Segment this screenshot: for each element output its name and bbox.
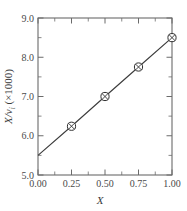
data-point-marker — [67, 122, 75, 130]
y-tick-label: 8.0 — [22, 52, 35, 63]
x-tick-label: 0.75 — [130, 178, 148, 189]
x-tick-label: 1.00 — [163, 178, 181, 189]
chart-svg: 5.0 6.0 7.0 8.0 9.0 0.00 0.25 0.50 0.75 … — [0, 0, 187, 211]
y-tick-label: 6.0 — [22, 130, 35, 141]
x-tick-label: 0.25 — [63, 178, 81, 189]
y-axis-title: X/νi (×1000) — [2, 69, 17, 125]
y-axis-title-suffix: (×1000) — [2, 69, 15, 105]
x-axis-title: X — [96, 194, 105, 206]
x-tick-label: 0.00 — [29, 178, 47, 189]
svg-text:X/νi (×1000): X/νi (×1000) — [2, 69, 17, 125]
y-tick-label: 7.0 — [22, 91, 35, 102]
data-point-marker — [134, 63, 142, 71]
x-tick-label: 0.50 — [96, 178, 114, 189]
chart-figure: 5.0 6.0 7.0 8.0 9.0 0.00 0.25 0.50 0.75 … — [0, 0, 187, 211]
data-point-marker — [168, 34, 176, 42]
data-point-marker — [101, 92, 109, 100]
y-tick-label: 9.0 — [22, 13, 35, 24]
